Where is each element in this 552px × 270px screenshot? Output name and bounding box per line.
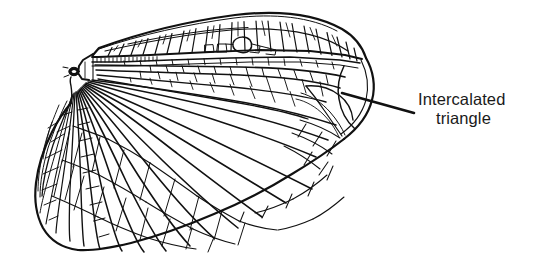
radiating-veins-upper [88, 80, 336, 157]
annotation-line-2: triangle [418, 109, 548, 128]
marginal-cells [240, 166, 344, 230]
annotation-intercalated-triangle: Intercalated triangle [418, 90, 548, 128]
wing-base-articulation [63, 54, 93, 80]
annotation-line-1: Intercalated [418, 90, 548, 109]
figure-canvas: Intercalated triangle [0, 0, 552, 270]
costal-crossveins-secondary [114, 21, 337, 51]
annotation-leader-line [342, 93, 414, 113]
hindwing-diagram [0, 0, 552, 270]
